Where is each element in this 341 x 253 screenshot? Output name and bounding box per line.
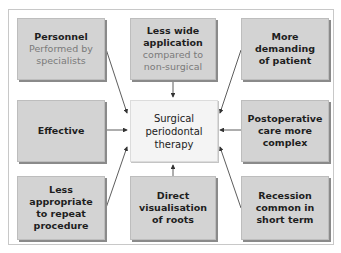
node-title: Effective xyxy=(38,125,85,137)
node-title: care more xyxy=(258,125,312,137)
node-effective: Effective xyxy=(17,100,105,162)
node-title: Less xyxy=(49,184,73,196)
node-title: procedure xyxy=(34,220,89,232)
node-title: complex xyxy=(263,137,308,149)
arrow-personnel xyxy=(106,49,127,113)
node-title: demanding xyxy=(255,43,315,55)
node-subtitle: non-surgical xyxy=(144,61,202,73)
node-title: appropriate xyxy=(29,196,92,208)
center-title: periodontal xyxy=(145,125,202,138)
node-title: to repeat xyxy=(36,208,86,220)
node-title: Postoperative xyxy=(248,113,323,125)
center-title: Surgical xyxy=(154,112,194,125)
arrow-less-appropriate xyxy=(106,147,127,208)
node-title: visualisation xyxy=(139,202,207,214)
node-title: of roots xyxy=(152,214,194,226)
node-recession: Recession common in short term xyxy=(241,176,329,240)
node-subtitle: compared to xyxy=(143,49,203,61)
node-subtitle: specialists xyxy=(36,55,85,67)
node-title: Personnel xyxy=(34,31,88,43)
node-direct-visualisation: Direct visualisation of roots xyxy=(130,176,216,240)
node-subtitle: Performed by xyxy=(29,43,93,55)
node-postoperative-care: Postoperative care more complex xyxy=(241,100,329,162)
node-title: short term xyxy=(256,214,313,226)
node-title: Direct xyxy=(157,190,189,202)
arrow-recession xyxy=(220,147,241,208)
node-title: application xyxy=(143,37,203,49)
center-title: therapy xyxy=(155,138,194,151)
node-title: Recession xyxy=(258,190,312,202)
node-less-appropriate: Less appropriate to repeat procedure xyxy=(17,176,105,240)
arrow-more-demanding xyxy=(220,50,241,113)
node-title: common in xyxy=(256,202,315,214)
center-node-surgical-periodontal-therapy: Surgical periodontal therapy xyxy=(130,100,218,162)
node-title: of patient xyxy=(259,55,312,67)
node-more-demanding: More demanding of patient xyxy=(241,18,329,80)
node-less-wide-application: Less wide application compared to non-su… xyxy=(130,18,216,80)
node-personnel: Personnel Performed by specialists xyxy=(17,18,105,80)
node-title: More xyxy=(271,31,298,43)
node-title: Less wide xyxy=(147,25,199,37)
